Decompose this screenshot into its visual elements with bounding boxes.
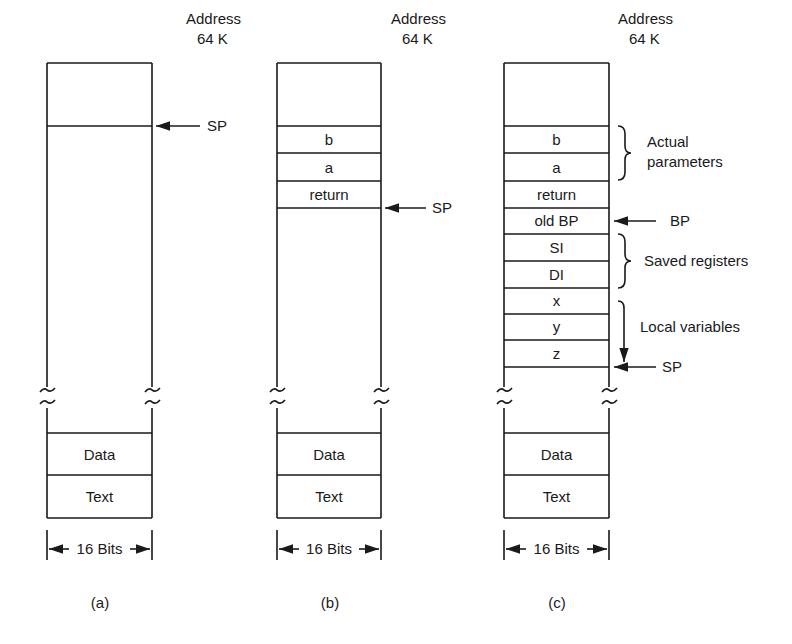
sp-label: SP (432, 199, 452, 216)
stack-cell-old-bp: old BP (534, 212, 578, 229)
address-label-line1: Address (618, 10, 673, 27)
address-label-line2: 64 K (402, 30, 433, 47)
stack-cell-si: SI (549, 239, 563, 256)
text-segment: Text (86, 488, 114, 505)
break-mark-icon (270, 388, 285, 404)
local-variables-label: Local variables (640, 318, 740, 335)
stack-cell-x: x (553, 292, 561, 309)
data-segment: Data (541, 446, 573, 463)
saved-registers-label: Saved registers (644, 252, 748, 269)
brace-icon (618, 126, 631, 180)
width-label: 16 Bits (77, 540, 123, 557)
address-label-line1: Address (391, 10, 446, 27)
stack-cell-z: z (553, 345, 561, 362)
panel-c: Address 64 K b a return old BP SI DI x y… (497, 10, 748, 611)
data-segment: Data (313, 446, 345, 463)
address-label-line2: 64 K (629, 30, 660, 47)
panel-caption: (c) (548, 594, 566, 611)
panel-caption: (b) (321, 594, 339, 611)
panel-b: Address 64 K b a return SP Data Text 16 … (270, 10, 452, 611)
stack-cell-di: DI (549, 266, 564, 283)
text-segment: Text (315, 488, 343, 505)
stack-frame-diagram: Address 64 K SP Data Text 16 Bits (a) Ad… (0, 0, 792, 644)
stack-cell-return: return (537, 186, 576, 203)
address-label-line2: 64 K (197, 30, 228, 47)
width-label: 16 Bits (306, 540, 352, 557)
break-mark-icon (602, 388, 617, 404)
text-segment: Text (543, 488, 571, 505)
stack-cell-a: a (552, 159, 561, 176)
stack-cell-b: b (552, 131, 560, 148)
address-label-line1: Address (186, 10, 241, 27)
stack-cell-y: y (553, 318, 561, 335)
width-label: 16 Bits (534, 540, 580, 557)
local-variables-arrow-icon (618, 301, 624, 362)
break-mark-icon (374, 388, 389, 404)
panel-a: Address 64 K SP Data Text 16 Bits (a) (40, 10, 241, 611)
bp-label: BP (670, 212, 690, 229)
actual-parameters-label-line1: Actual (647, 133, 689, 150)
break-mark-icon (40, 388, 55, 404)
break-mark-icon (145, 388, 160, 404)
stack-cell-b: b (325, 131, 333, 148)
actual-parameters-label-line2: parameters (647, 153, 723, 170)
break-mark-icon (497, 388, 512, 404)
stack-cell-a: a (325, 159, 334, 176)
panel-caption: (a) (91, 594, 109, 611)
brace-icon (618, 234, 631, 288)
sp-label: SP (207, 117, 227, 134)
stack-cell-return: return (309, 186, 348, 203)
data-segment: Data (84, 446, 116, 463)
sp-label: SP (662, 358, 682, 375)
